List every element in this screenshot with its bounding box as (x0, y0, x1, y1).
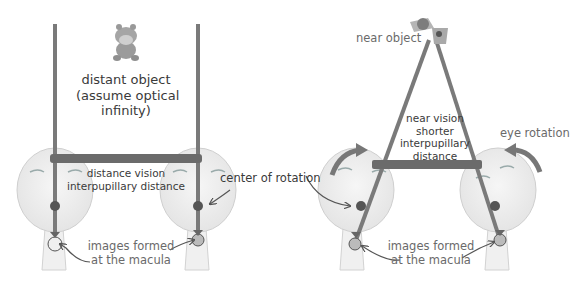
center-of-rotation-label: center of rotation (220, 172, 321, 186)
toy-hippo-icon (113, 24, 139, 61)
rotation-center-left-near (356, 201, 366, 211)
rotation-center-right-near (490, 201, 500, 211)
eye-rotation-label: eye rotation (500, 127, 570, 141)
rotation-center-right (193, 201, 203, 211)
macula-label-right: images formed at the macula (386, 240, 476, 268)
near-ipd-label: near vision shorter interpupillary dista… (395, 112, 475, 162)
macula-left-near (349, 238, 361, 250)
vergence-diagram: distant object (assume optical infinity)… (0, 0, 576, 285)
distance-ipd-bar (50, 154, 202, 163)
macula-label-left: images formed at the macula (86, 240, 176, 268)
distance-ipd-label: distance vision interpupillary distance (66, 167, 186, 192)
rotation-center-left (50, 201, 60, 211)
left-panel-graphics (17, 24, 236, 270)
distant-object-label: distant object (assume optical infinity) (76, 72, 176, 119)
near-object-label: near object (356, 32, 421, 46)
